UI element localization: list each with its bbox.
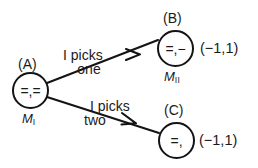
arrowhead-edge-a-to-b bbox=[126, 49, 140, 60]
edge-label-a-to-b: I picks one bbox=[63, 48, 103, 77]
node-a-sublabel-base: M bbox=[22, 111, 33, 126]
edge-label-a-to-c-line1: I picks bbox=[84, 99, 130, 113]
edge-label-a-to-c: I picks two bbox=[84, 99, 130, 128]
node-a-tag: (A) bbox=[18, 57, 37, 71]
node-b-payoff: (−1,1) bbox=[200, 41, 238, 56]
node-c[interactable]: =, bbox=[158, 122, 195, 159]
node-b-sublabel: MII bbox=[164, 70, 180, 83]
node-c-inner-text: =, bbox=[170, 133, 182, 147]
node-c-tag: (C) bbox=[164, 103, 183, 117]
node-b[interactable]: =,− bbox=[157, 30, 194, 67]
node-b-tag: (B) bbox=[163, 11, 182, 25]
node-a[interactable]: =,= bbox=[12, 72, 49, 109]
node-b-sublabel-base: M bbox=[164, 69, 175, 84]
node-b-sublabel-sub: II bbox=[175, 75, 180, 85]
edge-label-a-to-b-line1: I picks bbox=[63, 48, 103, 62]
node-b-inner-text: =,− bbox=[165, 41, 185, 55]
node-c-payoff: (−1,1) bbox=[199, 133, 237, 148]
game-tree-diagram: =,= (A) MI =,− (B) MII (−1,1) =, (C) (−1… bbox=[0, 0, 258, 168]
edge-label-a-to-b-line2: one bbox=[63, 62, 103, 76]
node-a-inner-text: =,= bbox=[20, 83, 40, 97]
edge-label-a-to-c-line2: two bbox=[84, 113, 130, 127]
node-a-sublabel: MI bbox=[22, 112, 35, 125]
